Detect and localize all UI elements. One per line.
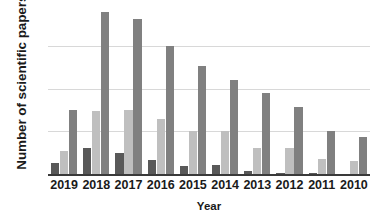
x-tick-2012: 2012	[273, 178, 305, 192]
bar-2014-series-1-dark	[212, 165, 220, 174]
bar-2013-series-2-light	[253, 148, 261, 174]
bar-chart: Number of scientific papers 201920182017…	[0, 0, 377, 223]
bar-group-2011	[309, 6, 335, 174]
bar-2015-series-3-medium	[198, 66, 206, 174]
bar-group-2018	[83, 6, 109, 174]
bar-group-2015	[180, 6, 206, 174]
bar-group-2016	[148, 6, 174, 174]
bar-2018-series-3-medium	[101, 12, 109, 174]
bar-2015-series-1-dark	[180, 166, 188, 175]
x-tick-2018: 2018	[80, 178, 112, 192]
x-axis-line	[48, 174, 370, 176]
bar-2016-series-1-dark	[148, 160, 156, 174]
y-axis-title: Number of scientific papers	[15, 0, 29, 170]
bar-2018-series-2-light	[92, 111, 100, 174]
bars-layer	[48, 6, 370, 174]
bar-2012-series-2-light	[285, 148, 293, 174]
x-tick-2017: 2017	[112, 178, 144, 192]
bar-group-2019	[51, 6, 77, 174]
x-tick-2010: 2010	[338, 178, 370, 192]
x-tick-2019: 2019	[48, 178, 80, 192]
x-tick-2013: 2013	[241, 178, 273, 192]
x-tick-2016: 2016	[145, 178, 177, 192]
bar-2015-series-2-light	[189, 131, 197, 174]
bar-group-2012	[276, 6, 302, 174]
bar-2011-series-3-medium	[327, 131, 335, 174]
bar-2018-series-1-dark	[83, 148, 91, 174]
bar-2012-series-3-medium	[294, 107, 302, 174]
bar-2010-series-3-medium	[359, 137, 367, 174]
bar-2014-series-3-medium	[230, 80, 238, 174]
x-tick-2015: 2015	[177, 178, 209, 192]
x-tick-2011: 2011	[306, 178, 338, 192]
bar-2017-series-2-light	[124, 110, 132, 174]
bar-group-2013	[244, 6, 270, 174]
bar-2011-series-2-light	[318, 159, 326, 174]
bar-2016-series-2-light	[157, 119, 165, 174]
x-axis-tick-labels: 2019201820172016201520142013201220112010	[48, 178, 370, 198]
x-axis-title: Year	[48, 200, 370, 212]
bar-group-2014	[212, 6, 238, 174]
bar-2019-series-2-light	[60, 151, 68, 174]
bar-2017-series-1-dark	[115, 153, 123, 174]
bar-2019-series-1-dark	[51, 163, 59, 174]
bar-2013-series-3-medium	[262, 93, 270, 174]
bar-group-2010	[341, 6, 367, 174]
x-tick-2014: 2014	[209, 178, 241, 192]
bar-2016-series-3-medium	[166, 46, 174, 174]
bar-2017-series-3-medium	[133, 19, 141, 174]
bar-group-2017	[115, 6, 141, 174]
bar-2019-series-3-medium	[69, 110, 77, 174]
bar-2010-series-2-light	[350, 161, 358, 174]
bar-2014-series-2-light	[221, 131, 229, 174]
